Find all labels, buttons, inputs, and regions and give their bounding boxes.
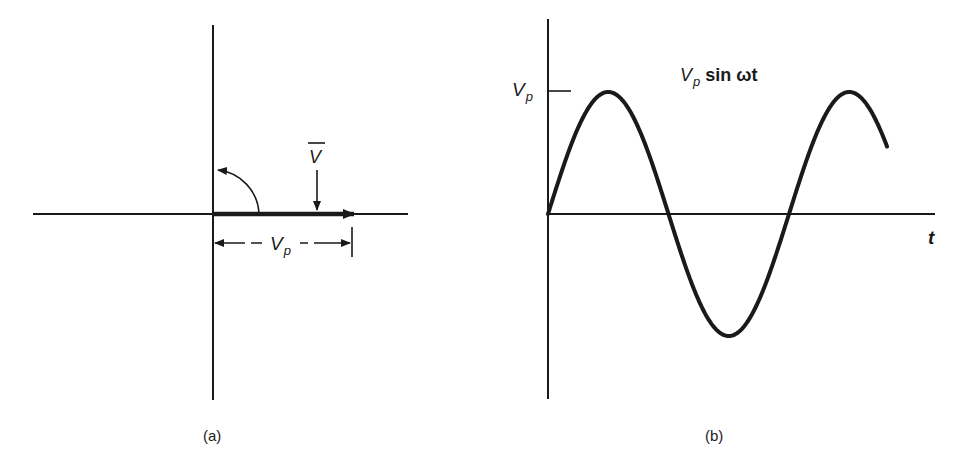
rotation-arc-arrow-icon bbox=[218, 170, 259, 214]
panel-a-caption: (a) bbox=[203, 427, 221, 444]
waveform-equation-label: Vp sin ωt bbox=[680, 65, 757, 89]
phasor-label: V bbox=[309, 147, 323, 167]
panel-a-phasor-diagram: V Vp (a) bbox=[33, 25, 408, 444]
magnitude-label: Vp bbox=[270, 233, 291, 258]
peak-tick-label: Vp bbox=[512, 79, 533, 104]
panel-b-caption: (b) bbox=[705, 427, 723, 444]
panel-b-waveform-plot: Vp Vp sin ωt t (b) bbox=[512, 19, 935, 444]
figure-canvas: V Vp (a) Vp Vp sin ωt t (b) bbox=[0, 0, 957, 469]
time-axis-label: t bbox=[928, 227, 935, 248]
